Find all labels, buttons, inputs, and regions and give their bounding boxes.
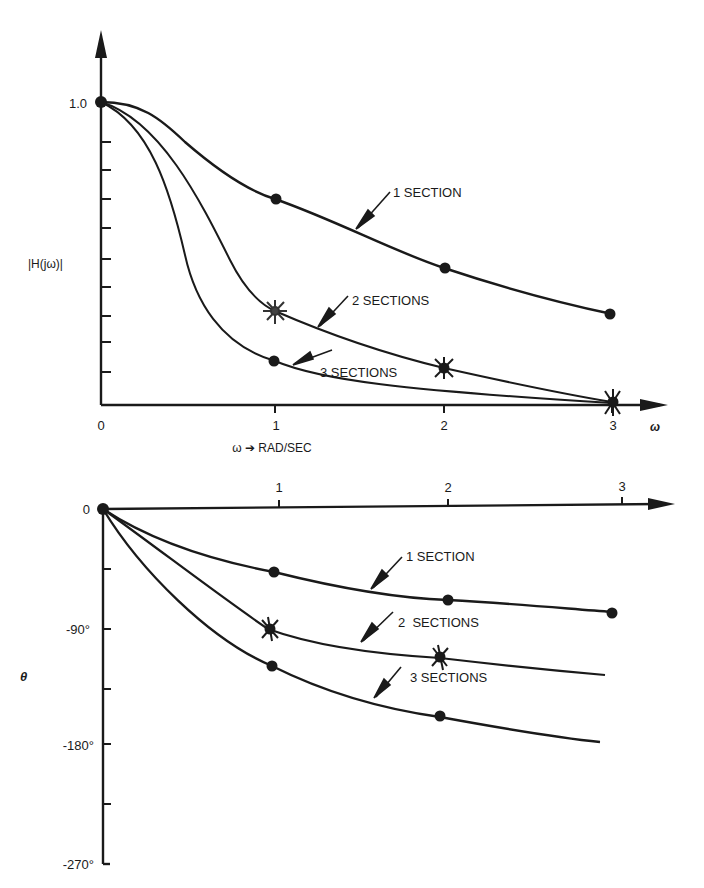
x-axis-arrow-icon <box>640 399 668 411</box>
x-axis-phase <box>103 504 660 509</box>
curve-2-sections-magnitude <box>101 102 612 402</box>
marker-dot <box>267 661 278 672</box>
x-label-1: 1 <box>272 418 279 433</box>
marker-dot <box>440 263 451 274</box>
x-axis-arrow-icon <box>648 498 675 510</box>
x-label-1-phase: 1 <box>275 480 282 495</box>
y-label-0: 0 <box>83 502 90 517</box>
y-label-minus-180: -180° <box>63 738 94 753</box>
x-label-2-phase: 2 <box>444 480 451 495</box>
leader-arrows-magnitude <box>293 192 390 365</box>
x-label-3: 3 <box>609 418 616 433</box>
curve-3-sections-magnitude <box>101 102 612 403</box>
y-label-1-0: 1.0 <box>69 96 87 111</box>
legend-1-section-magnitude: 1 SECTION <box>393 185 462 200</box>
curve-1-section-phase <box>103 509 612 612</box>
x-ticks-magnitude <box>275 405 612 413</box>
legend-2-sections-magnitude: 2 SECTIONS <box>352 293 430 308</box>
x-label-3-phase: 3 <box>618 479 625 494</box>
legend-3-sections-phase: 3 SECTIONS <box>410 670 488 685</box>
marker-star <box>435 357 453 379</box>
magnitude-chart: 1.0 |H(jω)| 0 1 2 3 ω ω ➔ RAD/SEC 1 SECT… <box>28 30 668 455</box>
x-axis-units: ω ➔ RAD/SEC <box>232 441 312 455</box>
x-axis-end-label: ω <box>650 420 660 434</box>
legend-2-sections-phase: 2 SECTIONS <box>398 615 479 630</box>
y-axis-arrow-icon <box>95 30 107 58</box>
marker-dot <box>269 356 280 367</box>
marker-dot <box>271 194 282 205</box>
leader-arrows-phase <box>361 557 402 698</box>
marker-dot <box>607 608 618 619</box>
marker-dot <box>435 711 446 722</box>
legend-3-sections-magnitude: 3 SECTIONS <box>320 365 398 380</box>
phase-chart: 0 -90° -180° -270° θ 1 2 3 1 SECTION 2 S… <box>20 479 675 872</box>
origin-marker <box>95 96 107 108</box>
marker-star <box>263 300 287 324</box>
y-axis-title-magnitude: |H(jω)| <box>28 257 63 271</box>
marker-dot <box>443 595 454 606</box>
y-axis-title-phase: θ <box>20 669 27 684</box>
marker-star <box>262 617 278 641</box>
marker-dot <box>605 309 616 320</box>
y-label-minus-270: -270° <box>63 857 94 872</box>
figure: 1.0 |H(jω)| 0 1 2 3 ω ω ➔ RAD/SEC 1 SECT… <box>0 0 704 888</box>
marker-dot <box>269 567 280 578</box>
x-label-2: 2 <box>440 418 447 433</box>
curve-1-section-magnitude <box>101 102 612 314</box>
curve-3-sections-phase <box>103 509 600 742</box>
y-label-minus-90: -90° <box>66 622 90 637</box>
origin-marker <box>97 503 109 515</box>
y-ticks-magnitude <box>101 142 111 372</box>
legend-1-section-phase: 1 SECTION <box>406 549 475 564</box>
x-label-0: 0 <box>97 418 104 433</box>
curve-2-sections-phase <box>103 509 605 675</box>
